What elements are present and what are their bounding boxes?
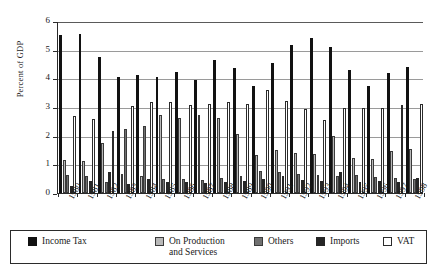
legend-item[interactable]: Imports — [316, 236, 360, 247]
legend-label: On Productionand Services — [169, 236, 225, 258]
x-axis-labels: 1980198119821983198419851986198719881989… — [57, 196, 423, 230]
bar — [275, 150, 278, 193]
bar — [121, 174, 124, 193]
bar-group — [117, 22, 134, 193]
bar — [236, 134, 239, 193]
y-tick-label: 0 — [30, 188, 50, 197]
white-swatch — [383, 237, 392, 246]
bar — [63, 160, 66, 193]
bar-group — [213, 22, 230, 193]
bar-group — [98, 22, 115, 193]
medium-gray-swatch — [254, 237, 263, 246]
chart-container: Percent of GDP 0123456 19801981198219831… — [0, 0, 437, 266]
bar — [82, 161, 85, 193]
bar — [285, 101, 288, 193]
legend-label: VAT — [397, 236, 414, 247]
y-tick-mark — [53, 194, 57, 195]
legend-item[interactable]: On Productionand Services — [155, 236, 225, 258]
bar — [198, 115, 201, 193]
legend-item[interactable]: Income Tax — [28, 236, 87, 247]
bar — [124, 129, 127, 193]
y-axis-title: Percent of GDP — [15, 9, 25, 129]
bar-groups — [58, 22, 423, 193]
y-tick-label: 3 — [30, 102, 50, 111]
bar — [227, 102, 230, 193]
bar — [217, 118, 220, 193]
bar-group — [406, 22, 423, 193]
bar-group — [136, 22, 153, 193]
legend-label: Income Tax — [42, 236, 87, 247]
bar-group — [329, 22, 346, 193]
dark-gray-swatch — [316, 237, 325, 246]
bar-group — [156, 22, 173, 193]
y-tick-label: 5 — [30, 45, 50, 54]
legend-label: Others — [268, 236, 293, 247]
bar-group — [79, 22, 96, 193]
bar — [208, 104, 211, 193]
bar — [143, 126, 146, 193]
bar — [420, 104, 423, 193]
bar-group — [387, 22, 404, 193]
chart-legend: Income TaxOn Productionand ServicesOther… — [10, 230, 427, 264]
bar — [255, 155, 258, 193]
bar-group — [367, 22, 384, 193]
bar-group — [290, 22, 307, 193]
bar-group — [59, 22, 76, 193]
y-tick-label: 6 — [30, 16, 50, 25]
y-tick-label: 1 — [30, 159, 50, 168]
bar-group — [252, 22, 269, 193]
bar-group — [233, 22, 250, 193]
black-swatch — [28, 237, 37, 246]
light-gray-swatch — [155, 237, 164, 246]
bar-group — [310, 22, 327, 193]
bar — [401, 105, 404, 193]
bar-group — [194, 22, 211, 193]
y-tick-label: 2 — [30, 131, 50, 140]
bar — [266, 90, 269, 193]
bar-group — [271, 22, 288, 193]
legend-label: Imports — [330, 236, 360, 247]
bar — [150, 102, 153, 193]
bar — [178, 118, 181, 193]
bar — [332, 136, 335, 193]
bar — [371, 159, 374, 193]
bar-group — [348, 22, 365, 193]
bar — [246, 104, 249, 193]
bar — [140, 176, 143, 193]
bar — [169, 102, 172, 193]
bar — [352, 158, 355, 193]
bar — [189, 105, 192, 193]
bar-group — [175, 22, 192, 193]
bar — [159, 115, 162, 193]
legend-item[interactable]: Others — [254, 236, 293, 247]
plot-area — [57, 22, 423, 194]
legend-item[interactable]: VAT — [383, 236, 414, 247]
y-tick-label: 4 — [30, 73, 50, 82]
